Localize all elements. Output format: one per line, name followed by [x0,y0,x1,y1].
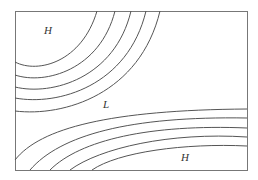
lower-right-isobars [15,109,247,170]
isobar-diagram [0,0,258,180]
low-pressure-label: L [103,98,109,110]
high-pressure-label-top: H [44,24,52,36]
high-pressure-label-bottom: H [181,151,189,163]
upper-left-isobars [15,11,160,112]
